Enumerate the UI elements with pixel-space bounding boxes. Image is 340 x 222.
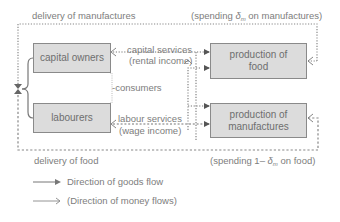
legend-money-arrow	[33, 198, 60, 204]
capital-owners-label: capital owners	[40, 52, 104, 64]
labourers-node: labourers	[33, 103, 111, 133]
capital-services-label: capital services	[127, 44, 192, 55]
delivery-food-label: delivery of food	[34, 155, 98, 166]
left-arrowheads	[14, 84, 22, 94]
capital-owners-node: capital owners	[33, 43, 111, 73]
production-food-line2: food	[249, 61, 268, 73]
spending-food-label: (spending 1– δm on food)	[210, 155, 315, 170]
delivery-manufactures-label: delivery of manufactures	[32, 10, 136, 21]
production-manufactures-node: production of manufactures	[210, 103, 307, 138]
production-food-line1: production of	[230, 49, 288, 61]
labour-services-label: labour services	[118, 113, 182, 124]
production-manufactures-line1: production of	[230, 109, 288, 121]
rental-income-label: (rental income)	[129, 55, 192, 66]
production-food-node: production of food	[210, 43, 307, 79]
consumers-label: -consumers	[112, 82, 162, 93]
consumer-bracket	[22, 58, 33, 118]
legend-money-label: (Direction of money flows)	[67, 195, 177, 206]
spending-manufactures-label: (spending δm on manufactures)	[191, 10, 322, 25]
spending-food-prefix: (spending 1–	[210, 155, 268, 166]
spending-manufactures-prefix: (spending	[191, 10, 235, 21]
labourers-label: labourers	[51, 112, 93, 124]
production-manufactures-line2: manufactures	[228, 121, 289, 133]
spending-food-suffix: on food)	[278, 155, 316, 166]
legend-goods-label: Direction of goods flow	[67, 176, 163, 187]
wage-income-label: (wage income)	[119, 125, 181, 136]
money-arrow-food	[308, 57, 317, 65]
spending-manufactures-suffix: on manufactures)	[246, 10, 323, 21]
legend-goods-arrow	[33, 179, 61, 185]
